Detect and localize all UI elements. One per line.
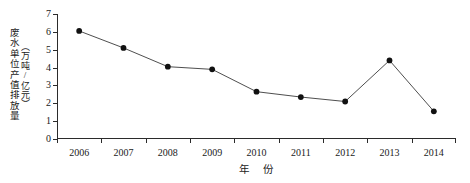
plot-area: 01234567 2006200720082009201020112012201… (57, 14, 456, 139)
x-tick-mark (279, 139, 280, 143)
series-markers (76, 28, 436, 114)
data-point (342, 99, 348, 105)
x-tick-mark (323, 139, 324, 143)
x-tick-label: 2013 (380, 147, 400, 158)
x-tick-label: 2011 (291, 147, 311, 158)
y-tick-label: 1 (46, 116, 51, 126)
y-tick-label: 2 (46, 98, 51, 108)
x-tick-label: 2008 (158, 147, 178, 158)
x-tick-mark (57, 139, 58, 143)
data-series-line (57, 14, 456, 139)
data-point (121, 45, 127, 51)
y-tick-label: 4 (46, 63, 51, 73)
x-tick-label: 2014 (424, 147, 444, 158)
data-point (209, 66, 215, 72)
data-point (431, 108, 437, 114)
x-tick-mark (455, 139, 456, 143)
y-tick-label: 3 (46, 80, 51, 90)
data-point (387, 58, 393, 64)
x-tick-mark (367, 139, 368, 143)
x-tick-label: 2006 (69, 147, 89, 158)
x-axis-title: 年 份 (57, 161, 456, 176)
data-point (298, 94, 304, 100)
x-tick-mark (190, 139, 191, 143)
x-tick-mark (146, 139, 147, 143)
y-tick-label: 6 (46, 27, 51, 37)
x-tick-label: 2012 (335, 147, 355, 158)
y-axis-title: 废水单位产值排放量 （万吨/亿元） (2, 0, 36, 150)
data-point (254, 89, 260, 95)
data-point (76, 28, 82, 34)
series-polyline (79, 31, 434, 111)
y-tick-label: 7 (46, 9, 51, 19)
y-axis-title-text: 废水单位产值排放量 (8, 28, 19, 122)
x-tick-mark (101, 139, 102, 143)
chart-figure: 废水单位产值排放量 （万吨/亿元） 01234567 2006200720082… (0, 0, 470, 183)
x-tick-label: 2007 (114, 147, 134, 158)
x-tick-label: 2009 (202, 147, 222, 158)
y-tick-label: 0 (46, 134, 51, 144)
x-tick-mark (412, 139, 413, 143)
y-axis-unit-text: （万吨/亿元） (19, 42, 30, 109)
data-point (165, 64, 171, 70)
x-tick-mark (234, 139, 235, 143)
y-tick-label: 5 (46, 45, 51, 55)
x-tick-label: 2010 (247, 147, 267, 158)
